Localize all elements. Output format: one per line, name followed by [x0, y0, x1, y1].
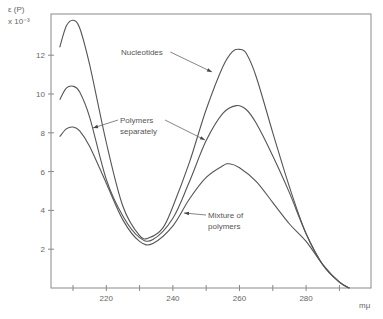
x-tick-label: 260	[233, 294, 247, 303]
y-tick-label: 2	[41, 245, 46, 254]
arrowhead-icon	[93, 125, 98, 128]
curve-polymers-separately	[60, 86, 350, 288]
y-tick-label: 12	[36, 51, 45, 60]
curves	[60, 20, 350, 288]
absorption-spectrum-chart: ε (P) x 10⁻³ mμ 22024026028024681012 Nuc…	[0, 0, 383, 319]
y-tick-label: 8	[41, 129, 46, 138]
x-tick-label: 240	[166, 294, 180, 303]
annotation-label: Polymers	[120, 116, 153, 125]
annotation-arrow	[165, 120, 205, 140]
y-axis-scale: x 10⁻³	[8, 17, 30, 26]
x-axis-unit: mμ	[359, 301, 371, 310]
axis-ticks: 22024026028024681012	[36, 51, 339, 303]
y-tick-label: 4	[41, 206, 46, 215]
curve-mixture-of-polymers	[60, 127, 350, 288]
arrowhead-icon	[200, 136, 205, 140]
x-tick-label: 220	[100, 294, 114, 303]
y-axis-title: ε (P)	[8, 5, 25, 14]
arrowhead-icon	[207, 68, 212, 72]
annotation-arrow	[170, 52, 212, 72]
annotation-label: polymers	[208, 222, 240, 231]
x-tick-label: 280	[299, 294, 313, 303]
annotation-label: Mixture of	[208, 211, 244, 220]
annotation-label: separately	[120, 127, 157, 136]
y-tick-label: 6	[41, 168, 46, 177]
curve-nucleotides	[60, 20, 350, 288]
y-tick-label: 10	[36, 90, 45, 99]
annotation-label: Nucleotides	[121, 48, 163, 57]
